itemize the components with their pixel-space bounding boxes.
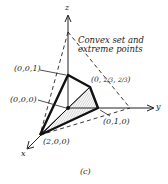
origin-point — [66, 106, 70, 110]
diagram-title: Convex set and extreme points — [78, 36, 144, 55]
axis-label-z: z — [65, 4, 69, 12]
fraction-1: 2/3 — [103, 76, 113, 83]
axis-label-y: y — [156, 103, 161, 111]
point-label-000: (0,0,0) — [10, 96, 37, 104]
title-line-2: extreme points — [78, 45, 144, 54]
axis-label-x: x — [21, 150, 26, 158]
point-label-010: (0,1,0) — [103, 118, 130, 126]
point-label-prefix: (0, — [91, 75, 101, 84]
point-label-0-23-23: (0, 2/3, 2/3) — [91, 76, 131, 84]
figure-caption: (c) — [80, 168, 91, 176]
point-label-001: (0,0,1) — [14, 65, 41, 73]
fraction-2: 2/3 — [118, 76, 128, 83]
point-label-close: ) — [128, 75, 131, 84]
point-label-200: (2,0,0) — [43, 138, 70, 146]
